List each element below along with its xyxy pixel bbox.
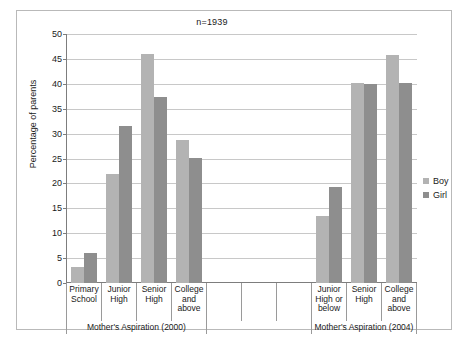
x-axis-category-line: above: [172, 304, 206, 314]
chart-screenshot: n=1939 Percentage of parents 05101520253…: [0, 0, 466, 347]
bar-boy: [106, 174, 119, 283]
x-axis-empty-cell: [207, 283, 242, 321]
y-axis-tick-label: 20: [40, 178, 62, 188]
x-axis-group-table: Mother's Aspiration (2000)Mother's Aspir…: [66, 321, 417, 334]
plot-area: 05101520253035404550: [66, 34, 417, 283]
bar-girl: [329, 187, 342, 283]
x-axis-category-line: below: [312, 304, 346, 314]
y-axis-tick-label: 40: [40, 79, 62, 89]
x-axis-category-table: PrimarySchoolJuniorHighSeniorHighCollege…: [66, 283, 417, 321]
x-axis-category-label: PrimarySchool: [67, 283, 102, 321]
legend-swatch-icon: [423, 192, 429, 198]
x-axis-category-line: High: [102, 295, 136, 305]
y-axis-title: Percentage of parents: [28, 64, 38, 184]
bar-boy: [351, 83, 364, 283]
x-axis-category-line: above: [382, 304, 416, 314]
legend-swatch-icon: [423, 178, 429, 184]
x-axis-empty-cell: [242, 283, 277, 321]
y-axis-tick-label: 0: [40, 278, 62, 288]
y-axis-tick-label: 5: [40, 253, 62, 263]
x-axis-category-line: High: [137, 295, 171, 305]
x-axis-category-label: SeniorHigh: [347, 283, 382, 321]
bar-group: [136, 34, 171, 283]
bar-group: [277, 34, 312, 283]
bar-group: [241, 34, 276, 283]
bar-girl: [119, 126, 132, 283]
bar-boy: [386, 55, 399, 283]
x-axis-category-label: JuniorHigh: [102, 283, 137, 321]
bar-group: [101, 34, 136, 283]
bar-group: [347, 34, 382, 283]
x-axis-group-label: Mother's Aspiration (2000): [67, 321, 207, 334]
y-axis-tick-label: 35: [40, 104, 62, 114]
bar-group: [206, 34, 241, 283]
bar-group: [171, 34, 206, 283]
x-axis-category-label: JuniorHigh orbelow: [312, 283, 347, 321]
x-axis-category-label: Collegeandabove: [382, 283, 417, 321]
bar-boy: [316, 216, 329, 283]
legend-label: Girl: [433, 190, 447, 200]
y-axis-tick-label: 25: [40, 154, 62, 164]
bar-girl: [154, 97, 167, 283]
x-axis-empty-cell: [277, 283, 312, 321]
x-axis-group-label: Mother's Aspiration (2004): [312, 321, 417, 334]
x-axis-category-label: Collegeandabove: [172, 283, 207, 321]
x-axis-category-label: SeniorHigh: [137, 283, 172, 321]
bar-group: [66, 34, 101, 283]
y-axis-tick-label: 10: [40, 228, 62, 238]
x-axis-group-spacer: [207, 321, 312, 334]
bar-girl: [399, 83, 412, 283]
bar-girl: [84, 253, 97, 283]
bar-girl: [364, 84, 377, 283]
legend-label: Boy: [433, 176, 449, 186]
bar-group: [382, 34, 417, 283]
y-axis-tick-label: 50: [40, 29, 62, 39]
bar-boy: [141, 54, 154, 283]
y-axis-tick-label: 30: [40, 129, 62, 139]
x-axis-category-line: High: [347, 295, 381, 305]
legend-item: Boy: [423, 174, 466, 188]
y-axis-tick-label: 45: [40, 54, 62, 64]
legend-item: Girl: [423, 188, 466, 202]
x-axis-category-line: School: [67, 295, 101, 305]
bar-groups: [66, 34, 417, 283]
bar-girl: [189, 158, 202, 283]
chart-frame: n=1939 Percentage of parents 05101520253…: [16, 10, 452, 330]
chart-title: n=1939: [17, 17, 407, 27]
bar-boy: [176, 140, 189, 283]
y-axis-tick-label: 15: [40, 203, 62, 213]
chart-legend: BoyGirl: [423, 174, 466, 202]
bar-boy: [71, 267, 84, 283]
bar-group: [312, 34, 347, 283]
